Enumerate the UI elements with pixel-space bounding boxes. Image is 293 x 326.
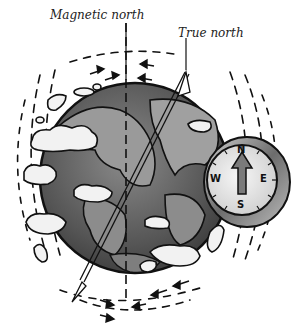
magnetic-vs-true-north-illustration: Magnetic north True north [0, 0, 293, 326]
compass-north-letter: N [237, 144, 245, 155]
earth-globe [40, 83, 230, 273]
compass-south-letter: S [237, 199, 244, 210]
diagram-graphic [0, 0, 293, 326]
compass-east-letter: E [260, 173, 267, 184]
compass-west-letter: W [210, 173, 221, 184]
